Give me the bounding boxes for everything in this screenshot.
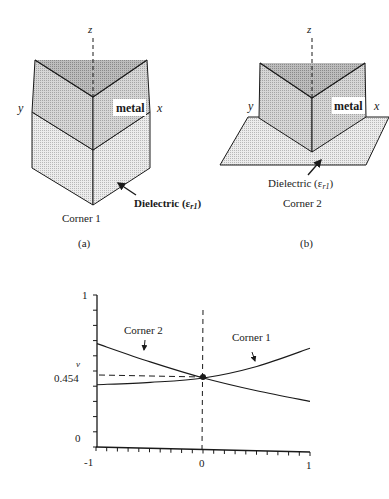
corner-2-curve-label: Corner 2 xyxy=(124,324,163,336)
metal-label: metal xyxy=(334,99,363,113)
dielectric-arrow xyxy=(118,183,136,195)
y-axis-label: v xyxy=(76,359,80,369)
y-tick-label-0: 0 xyxy=(75,432,81,444)
curve-corner-2 xyxy=(97,344,310,402)
intersection-point xyxy=(200,374,206,380)
y-axis-label: y xyxy=(17,101,24,115)
corner-1-curve-label: Corner 1 xyxy=(232,331,271,343)
corner-1-arrow xyxy=(252,352,255,361)
panel-a-corner-1: z y x metal Dielectric (εr1) Corner 1 (a… xyxy=(17,23,201,250)
corner-1-label: Corner 1 xyxy=(62,212,101,224)
vertical-dashed-zero xyxy=(202,310,203,450)
horizontal-dashed-0454 xyxy=(99,375,202,377)
corner-2-arrow xyxy=(144,340,145,350)
panel-b-caption: (b) xyxy=(300,237,313,250)
dielectric-label: Dielectric (εr1) xyxy=(134,197,201,211)
z-axis-label: z xyxy=(87,23,93,35)
panel-a-caption: (a) xyxy=(78,237,91,250)
y-axis-label: y xyxy=(247,99,254,113)
x-tick-label-0: 0 xyxy=(199,457,205,469)
corner-2-label: Corner 2 xyxy=(283,197,322,209)
x-tick-label-1: 1 xyxy=(306,459,312,471)
figure-canvas: z y x metal Dielectric (εr1) Corner 1 (a… xyxy=(0,0,389,499)
panel-b-corner-2: z y x metal Dielectric (εr1) Corner 2 (b… xyxy=(220,23,389,250)
metal-label: metal xyxy=(116,101,145,115)
x-tick-label-neg1: -1 xyxy=(84,456,93,468)
y-tick-label-0454: 0.454 xyxy=(54,372,79,384)
x-axis-label: x xyxy=(373,99,380,113)
x-ticks xyxy=(96,447,310,456)
dielectric-label: Dielectric (εr1) xyxy=(268,177,334,191)
x-axis-label: x xyxy=(156,101,163,115)
y-tick-label-1: 1 xyxy=(82,289,88,301)
v-vs-epsilon-chart: 1 v 0.454 0 -1 0 1 Corner 2 Corner 1 xyxy=(54,289,312,471)
z-axis-label: z xyxy=(306,23,312,35)
